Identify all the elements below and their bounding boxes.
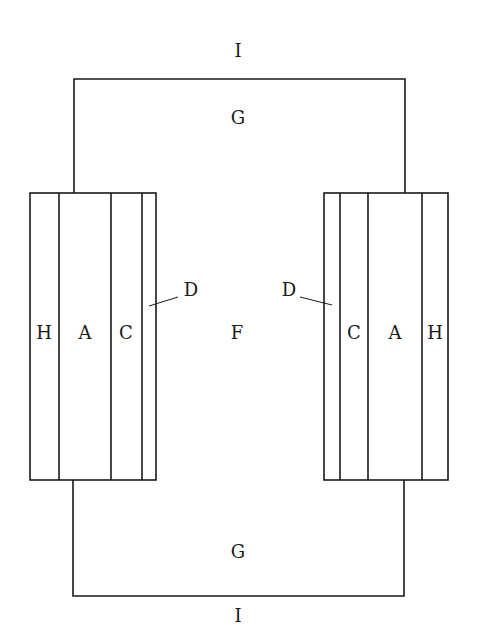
- cell-diagram: H A C D C A H D I G F G I: [0, 0, 477, 637]
- left-layer-a-label: A: [78, 322, 93, 343]
- left-d-pointer-line: [149, 297, 178, 306]
- top-region-label: G: [231, 107, 245, 128]
- left-layer-c-label: C: [119, 322, 133, 343]
- right-layer-a-label: A: [388, 322, 403, 343]
- top-wire-label: I: [234, 40, 241, 61]
- top-wire: [74, 79, 405, 193]
- right-layer-d-label: D: [282, 279, 296, 300]
- bottom-wire-label: I: [234, 605, 241, 626]
- bottom-region-label: G: [231, 541, 245, 562]
- left-stack: H A C D: [30, 193, 198, 480]
- right-layer-c-label: C: [347, 322, 361, 343]
- left-layer-d-label: D: [184, 279, 198, 300]
- center-label: F: [231, 322, 244, 343]
- right-stack: C A H D: [282, 193, 448, 480]
- right-layer-h-label: H: [427, 322, 443, 343]
- left-layer-h-label: H: [36, 322, 52, 343]
- bottom-wire: [73, 480, 404, 596]
- right-d-pointer-line: [300, 297, 332, 305]
